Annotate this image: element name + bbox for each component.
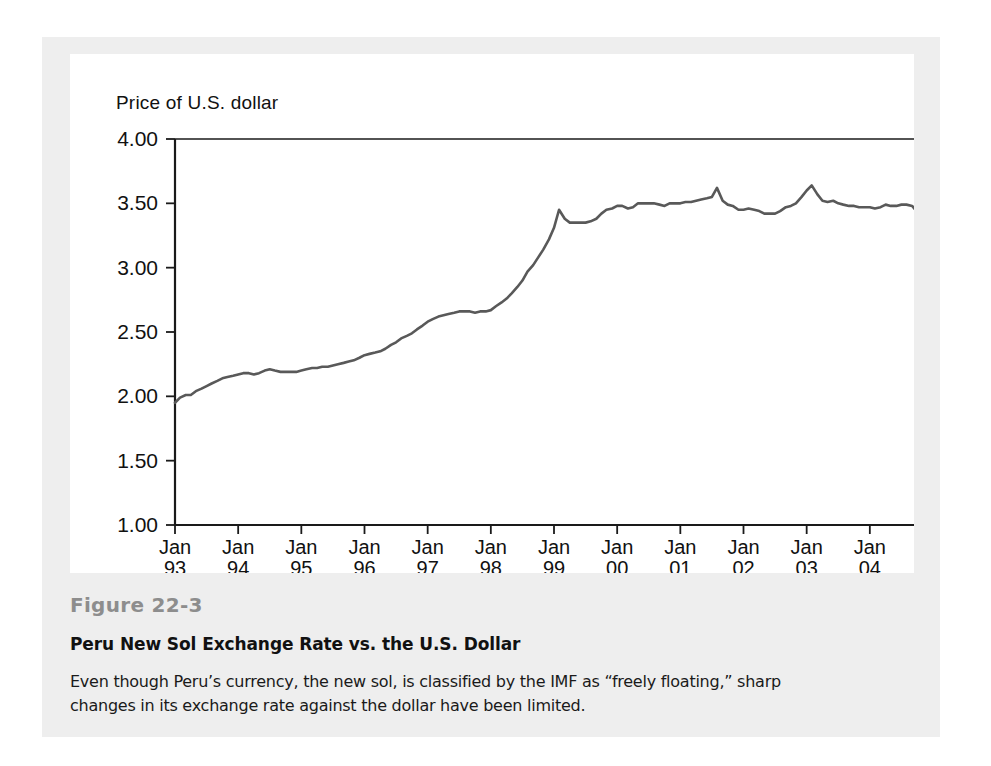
y-axis-tick-labels: 4.003.503.002.502.001.501.00: [117, 127, 158, 536]
x-tick-label: Jan99: [538, 536, 570, 573]
x-tick-label: Jan93: [159, 536, 191, 573]
x-tick-label: Jan97: [412, 536, 444, 573]
x-tick-label: Jan02: [727, 536, 759, 573]
y-tick-label: 3.50: [117, 191, 158, 214]
chart-card: Price of U.S. dollar 4.003.503.002.502.0…: [70, 54, 914, 573]
x-tick-label: Jan03: [791, 536, 823, 573]
x-tick-label: Jan04: [854, 536, 886, 573]
figure-number: Figure 22-3: [70, 593, 920, 617]
figure-panel: Price of U.S. dollar 4.003.503.002.502.0…: [42, 37, 940, 737]
y-axis-tick-marks: [166, 139, 175, 525]
exchange-rate-line: [175, 185, 914, 402]
y-tick-label: 2.00: [117, 384, 158, 407]
figure-caption: Figure 22-3 Peru New Sol Exchange Rate v…: [70, 593, 920, 718]
x-tick-label: Jan00: [601, 536, 633, 573]
y-tick-label: 4.00: [117, 127, 158, 150]
line-chart-plot: 4.003.503.002.502.001.501.00 Jan93Jan94J…: [70, 54, 914, 573]
x-tick-label: Jan95: [285, 536, 317, 573]
x-tick-label: Jan96: [348, 536, 380, 573]
x-tick-label: Jan01: [664, 536, 696, 573]
y-tick-label: 2.50: [117, 320, 158, 343]
figure-description: Even though Peru’s currency, the new sol…: [70, 670, 810, 718]
y-tick-label: 1.50: [117, 449, 158, 472]
x-tick-label: Jan94: [222, 536, 254, 573]
x-tick-label: Jan98: [475, 536, 507, 573]
y-tick-label: 1.00: [117, 513, 158, 536]
figure-title: Peru New Sol Exchange Rate vs. the U.S. …: [70, 634, 920, 654]
chart-area: Price of U.S. dollar 4.003.503.002.502.0…: [70, 54, 914, 573]
x-axis-tick-marks: [175, 525, 914, 534]
x-axis-tick-labels: Jan93Jan94Jan95Jan96Jan97Jan98Jan99Jan00…: [159, 536, 914, 573]
y-tick-label: 3.00: [117, 256, 158, 279]
